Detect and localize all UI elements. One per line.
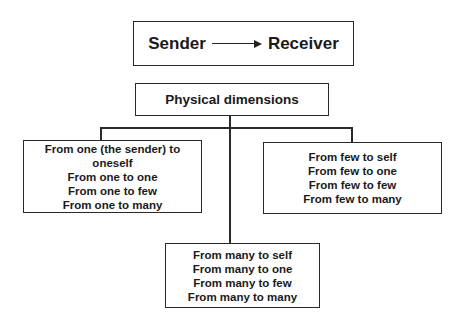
from-one-line: From one to many (63, 198, 163, 212)
from-one-line: From one to few (68, 184, 157, 198)
sender-receiver-box: Sender Receiver (133, 21, 354, 66)
from-many-line: From many to few (193, 276, 291, 290)
from-one-line: oneself (92, 156, 132, 170)
from-few-line: From few to self (308, 150, 396, 164)
receiver-label: Receiver (268, 34, 339, 54)
from-few-line: From few to few (309, 178, 397, 192)
from-one-box: From one (the sender) to oneself From on… (23, 140, 202, 213)
from-few-line: From few to one (308, 164, 397, 178)
from-few-box: From few to self From few to one From fe… (263, 142, 442, 214)
from-one-line: From one to one (67, 170, 157, 184)
from-many-box: From many to self From many to one From … (165, 243, 320, 308)
arrow-right-icon (212, 40, 262, 48)
physical-dimensions-box: Physical dimensions (135, 83, 329, 116)
from-one-line: From one (the sender) to (45, 142, 180, 156)
physical-dimensions-label: Physical dimensions (165, 92, 299, 107)
from-many-line: From many to self (193, 248, 292, 262)
sender-label: Sender (148, 34, 206, 54)
from-few-line: From few to many (303, 192, 401, 206)
connector-horizontal (100, 127, 352, 129)
connector-right-drop (351, 127, 353, 142)
from-many-line: From many to one (193, 262, 293, 276)
from-many-line: From many to many (188, 290, 297, 304)
connector-left-drop (100, 127, 102, 141)
connector-vertical-main (229, 116, 231, 243)
